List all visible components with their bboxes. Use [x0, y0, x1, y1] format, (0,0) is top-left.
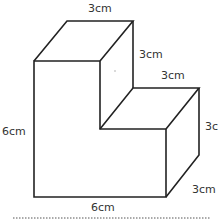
- l-prism-drawing: [0, 0, 218, 223]
- label-left-height: 6cm: [2, 126, 26, 137]
- lower-right-face: [166, 88, 199, 197]
- label-step-width: 3cm: [161, 70, 185, 81]
- label-depth: 3cm: [192, 184, 216, 195]
- label-top-width: 3cm: [88, 3, 112, 14]
- label-upper-height: 3cm: [139, 49, 163, 60]
- speck: [114, 70, 115, 71]
- label-right-height: 3c: [205, 121, 218, 132]
- step-top-face: [100, 88, 199, 129]
- upper-top-face: [34, 21, 133, 61]
- label-bottom-width: 6cm: [91, 202, 115, 213]
